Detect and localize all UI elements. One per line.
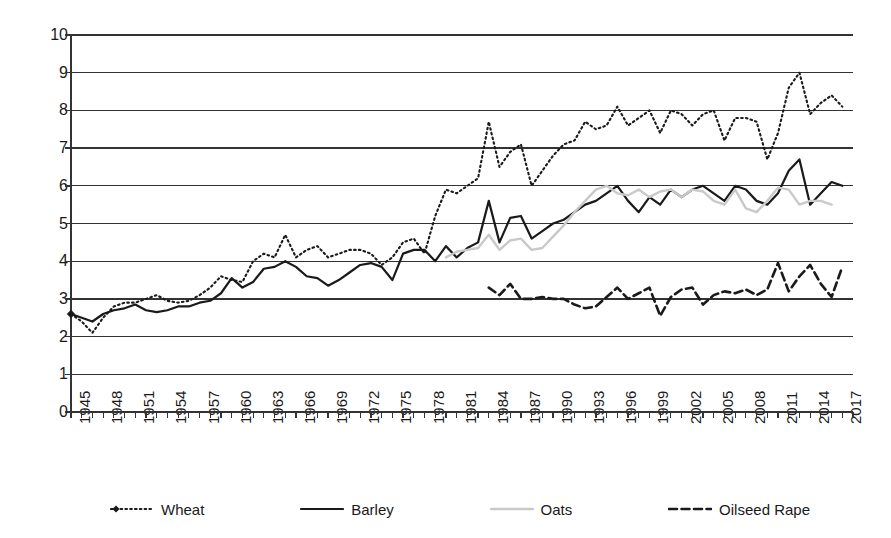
legend-item-barley[interactable]: Barley — [300, 501, 394, 518]
dashed-line-icon — [668, 502, 712, 516]
series-line-oilseed-rape — [489, 263, 843, 316]
chart-legend: WheatBarleyOatsOilseed Rape — [110, 492, 810, 526]
legend-item-oilseed-rape[interactable]: Oilseed Rape — [668, 501, 810, 518]
gridlines — [71, 35, 853, 374]
data-series-group — [67, 73, 842, 333]
series-line-barley — [71, 159, 842, 321]
chart-container: Yield (t/ha) 109876543210 19451948195119… — [0, 0, 891, 538]
solid-line-icon — [300, 502, 344, 516]
plot-area — [0, 0, 891, 538]
legend-label: Oilseed Rape — [719, 501, 810, 518]
light-gray-line-icon — [490, 502, 534, 516]
legend-label: Barley — [351, 501, 394, 518]
legend-label: Wheat — [161, 501, 204, 518]
legend-item-wheat[interactable]: Wheat — [110, 501, 204, 518]
axis-ticks — [65, 35, 853, 418]
legend-item-oats[interactable]: Oats — [490, 501, 573, 518]
legend-label: Oats — [541, 501, 573, 518]
dotted-line-with-diamond-marker-icon — [110, 502, 154, 516]
